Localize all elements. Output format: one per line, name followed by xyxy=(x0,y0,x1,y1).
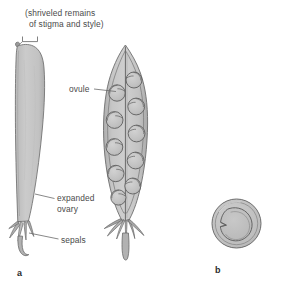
ovule xyxy=(125,178,141,194)
label-ovule: ovule xyxy=(69,84,90,95)
stigma-bracket xyxy=(23,37,38,42)
ovule xyxy=(106,139,123,156)
label-stigma-line2: of stigma and style) xyxy=(25,19,104,30)
pedicel-sectioned xyxy=(122,233,129,260)
sepal xyxy=(24,222,26,240)
caption-b: b xyxy=(215,265,221,275)
pedicel-intact xyxy=(18,236,29,256)
label-expanded-ovary-line1: expanded xyxy=(57,193,95,203)
ovule xyxy=(128,98,145,115)
label-stigma-line1: (shriveled remains xyxy=(25,8,95,18)
ovule xyxy=(128,125,145,142)
label-expanded-ovary: expandedovary xyxy=(57,193,95,214)
cross-section-group xyxy=(212,199,261,248)
label-expanded-ovary-line2: ovary xyxy=(57,204,78,214)
figure-drawing xyxy=(0,0,293,291)
sectioned-pod-group xyxy=(104,45,148,260)
ovule xyxy=(111,190,126,205)
ovule xyxy=(106,112,123,129)
caption-a: a xyxy=(17,268,22,278)
ovule xyxy=(108,165,124,181)
botanical-figure: (shriveled remainsof stigma and style) o… xyxy=(0,0,293,291)
ovule xyxy=(127,152,144,169)
ovule xyxy=(126,72,142,88)
stigma-bracket-tick xyxy=(19,42,22,45)
intact-pod-group xyxy=(9,42,45,255)
label-stigma-and-style: (shriveled remainsof stigma and style) xyxy=(25,8,104,29)
label-sepals: sepals xyxy=(61,235,86,246)
ovule xyxy=(109,85,125,101)
expanded-ovary-leader xyxy=(35,194,55,199)
